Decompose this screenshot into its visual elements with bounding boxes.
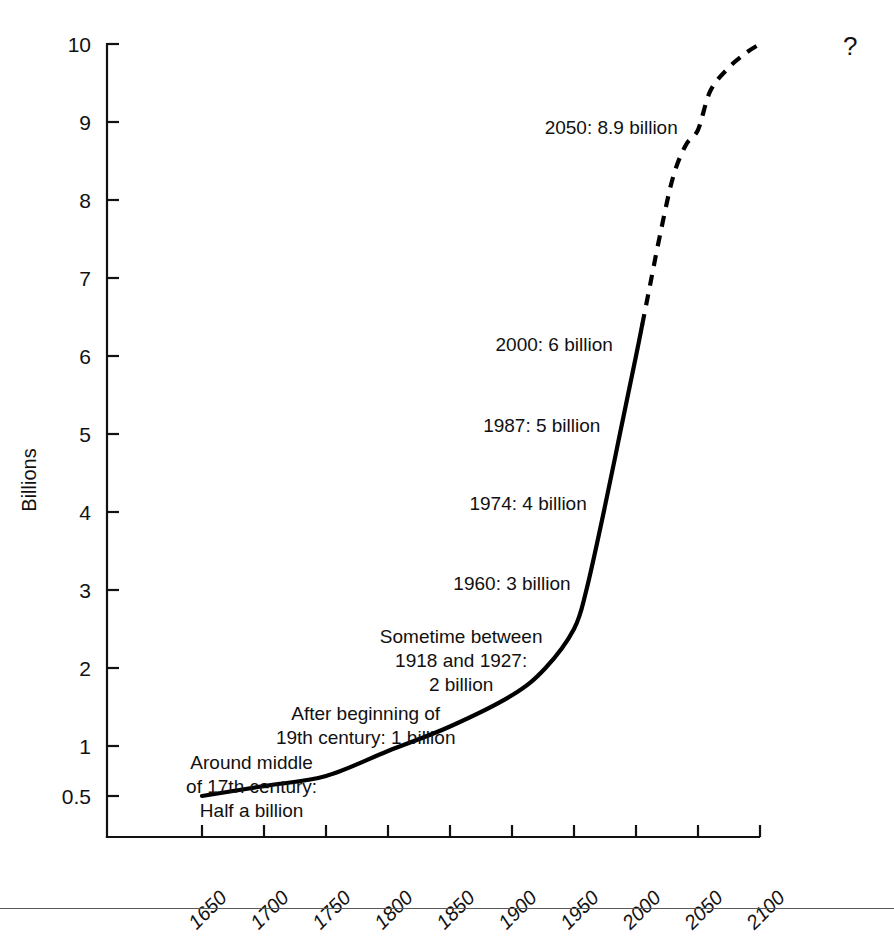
x-tick-label-1750: 1750 (308, 886, 355, 933)
annotation-1987-line-1: 1987: 5 billion (483, 415, 600, 436)
footer-divider-rule (0, 908, 894, 909)
y-axis-title: Billions (18, 448, 40, 511)
y-tick-label-10: 10 (68, 33, 91, 56)
y-tick-label-6: 6 (79, 345, 91, 368)
y-tick-label-0.5: 0.5 (62, 785, 91, 808)
annotation-1960: 1960: 3 billion (453, 573, 570, 594)
population-historical-line (202, 325, 642, 796)
chart-canvas: 109876543210.5 Billions 1650170017501800… (0, 0, 894, 940)
x-tick-group (202, 825, 760, 837)
annotation-1960-line-1: 1960: 3 billion (453, 573, 570, 594)
y-tick-label-4: 4 (79, 501, 91, 524)
y-tick-label-2: 2 (79, 657, 91, 680)
annotation-1-billion-line-2: 19th century: 1 billion (276, 727, 456, 748)
x-axis: 1650170017501800185019001950200020502100 (107, 825, 789, 934)
y-tick-label-5: 5 (79, 423, 91, 446)
y-tick-label-1: 1 (79, 735, 91, 758)
annotation-2000: 2000: 6 billion (496, 334, 613, 355)
y-tick-group (107, 44, 119, 796)
projection-uncertainty-marker: ? (843, 31, 857, 61)
y-tick-label-8: 8 (79, 189, 91, 212)
annotation-1974-line-1: 1974: 4 billion (469, 493, 586, 514)
annotation-1974: 1974: 4 billion (469, 493, 586, 514)
x-tick-label-1800: 1800 (370, 886, 417, 933)
y-tick-label-7: 7 (79, 267, 91, 290)
annotation-half-billion: Around middleof 17th century:Half a bill… (186, 752, 317, 821)
annotation-half-billion-line-1: Around middle (190, 752, 313, 773)
annotation-1-billion: After beginning of19th century: 1 billio… (276, 703, 456, 748)
x-tick-label-2050: 2050 (679, 886, 727, 934)
annotation-1987: 1987: 5 billion (483, 415, 600, 436)
annotation-half-billion-line-2: of 17th century: (186, 776, 317, 797)
annotation-1-billion-line-1: After beginning of (291, 703, 441, 724)
population-growth-chart: 109876543210.5 Billions 1650170017501800… (0, 0, 894, 940)
annotation-2050-line-1: 2050: 8.9 billion (545, 117, 678, 138)
y-axis: 109876543210.5 Billions (18, 33, 119, 837)
annotation-2-billion-line-2: 1918 and 1927: (395, 650, 527, 671)
annotation-half-billion-line-3: Half a billion (200, 800, 304, 821)
y-tick-label-group: 109876543210.5 (62, 33, 92, 808)
x-tick-label-1850: 1850 (432, 886, 479, 933)
x-tick-label-1650: 1650 (184, 886, 231, 933)
annotation-2-billion-line-1: Sometime between (380, 626, 543, 647)
x-tick-label-1700: 1700 (246, 886, 293, 933)
annotation-2050: 2050: 8.9 billion (545, 117, 678, 138)
y-tick-label-9: 9 (79, 111, 91, 134)
annotation-2-billion: Sometime between1918 and 1927:2 billion (380, 626, 543, 695)
x-tick-label-group: 1650170017501800185019001950200020502100 (184, 886, 789, 934)
annotation-2000-line-1: 2000: 6 billion (496, 334, 613, 355)
x-tick-label-2100: 2100 (741, 886, 789, 934)
x-tick-label-2000: 2000 (617, 886, 665, 934)
annotation-layer: 2050: 8.9 billion2000: 6 billion1987: 5 … (186, 117, 678, 821)
y-tick-label-3: 3 (79, 579, 91, 602)
x-tick-label-1950: 1950 (556, 886, 603, 933)
annotation-2-billion-line-3: 2 billion (429, 674, 493, 695)
x-tick-label-1900: 1900 (494, 886, 541, 933)
population-projection-line (642, 44, 760, 325)
